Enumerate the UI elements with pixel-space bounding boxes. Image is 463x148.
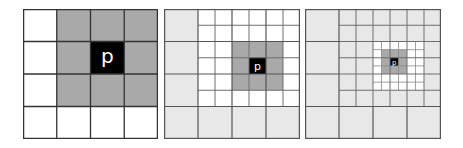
panel-fine-grid: p: [305, 9, 441, 139]
panel-coarse-grid: p: [23, 9, 158, 139]
center-label: p: [254, 60, 261, 73]
center-label: p: [392, 59, 397, 67]
panel-medium-grid: p: [164, 9, 300, 139]
center-label: p: [101, 44, 114, 68]
